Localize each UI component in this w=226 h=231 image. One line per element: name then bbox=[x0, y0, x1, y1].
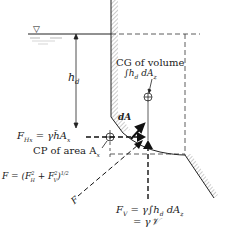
free-surface-symbol: ▽ bbox=[33, 25, 40, 34]
FHx-arrow bbox=[86, 132, 146, 142]
fv-eq-tail-sub: z bbox=[180, 210, 183, 217]
cg-int: ∫h bbox=[124, 68, 135, 78]
cp-area-text: CP of area A bbox=[33, 145, 96, 156]
free-surface bbox=[28, 34, 111, 44]
cg-int-tail: dA bbox=[138, 68, 153, 78]
fr-pow: 1/2 bbox=[61, 170, 69, 176]
cp-area-sub: x bbox=[96, 151, 99, 158]
cp-area-label: CP of area Ax bbox=[33, 146, 100, 158]
fhx-eq-sub: x bbox=[67, 136, 70, 143]
wall-hatching bbox=[111, 0, 218, 198]
fhx-eq: = γh̄A bbox=[33, 130, 67, 141]
FHx-label: FHx = γh̄Ax bbox=[17, 131, 70, 143]
F-resultant-label: F = (F2H + F2V)1/2 bbox=[2, 171, 69, 183]
fhx-main: F bbox=[17, 130, 24, 141]
cg-volume-label: CG of volume bbox=[116, 58, 184, 68]
fr-a: F = (F bbox=[2, 171, 31, 181]
dA-label: dA bbox=[118, 113, 131, 122]
depth-label: hd bbox=[68, 72, 80, 86]
cp-marker bbox=[102, 133, 114, 148]
fv-eq: = γ∫h bbox=[127, 204, 159, 215]
cg-marker bbox=[144, 79, 152, 101]
cg-integral-label: ∫hd dAz bbox=[124, 69, 157, 80]
fhx-sub: Hx bbox=[24, 136, 33, 143]
depth-label-sub: d bbox=[75, 78, 79, 86]
cg-int-tail-sub: z bbox=[153, 73, 156, 80]
FV-arrow bbox=[143, 140, 153, 200]
fr-plus: + F bbox=[35, 171, 55, 181]
fv-main: F bbox=[116, 204, 123, 215]
FV-label-line2: = γ𝒱 bbox=[133, 217, 159, 227]
fv-eq-tail: dA bbox=[164, 204, 181, 215]
diagram-canvas: ▽ hd CG of volume ∫hd dAz dA FHx = γh̄Ax… bbox=[0, 0, 226, 231]
diagram-graphics bbox=[0, 0, 226, 231]
